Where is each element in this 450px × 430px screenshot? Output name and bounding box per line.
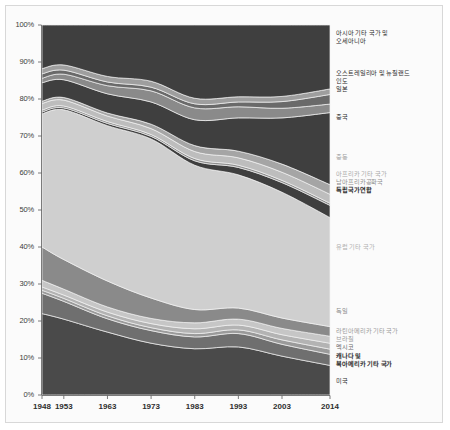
legend-item-label: 유럽 기타 국가	[336, 243, 375, 251]
legend-item-india[interactable]: 인도	[336, 77, 348, 85]
y-tick-label: 60%	[0, 168, 34, 177]
legend-item-africa-other[interactable]: 아프리카 기타 국가	[336, 170, 386, 178]
stacked-area-chart: 0%10%20%30%40%50%60%70%80%90%100% 194819…	[0, 0, 450, 430]
legend-item-label: 독립국가연합	[336, 186, 371, 194]
legend-item-label: 인도	[336, 77, 348, 85]
legend-item-label: 아프리카 기타 국가	[336, 170, 386, 178]
y-tick-label: 0%	[0, 390, 34, 399]
x-tick-label: 1953	[44, 402, 84, 411]
x-tick-label: 1963	[87, 402, 127, 411]
legend-item-mexico[interactable]: 멕시코	[336, 343, 354, 351]
legend-item-label: 중동	[336, 153, 348, 161]
legend-item-usa[interactable]: 미국	[336, 377, 348, 385]
legend-item-label: 아시아 기타 국가 및	[336, 29, 388, 37]
legend-item-europe-other[interactable]: 유럽 기타 국가	[336, 243, 375, 251]
legend-item-label: 미국	[336, 377, 348, 385]
legend-item-label: 브라질	[336, 335, 354, 343]
legend-item-label: 독일	[336, 307, 348, 315]
legend-item-label: 오세아니아	[336, 37, 388, 45]
legend-item-label: 북아메리카 기타 국가	[336, 360, 392, 368]
legend-item-label: 캐나다 및	[336, 352, 392, 360]
y-tick-label: 80%	[0, 94, 34, 103]
x-tick-label: 1993	[218, 402, 258, 411]
legend-item-japan[interactable]: 일본	[336, 85, 348, 93]
legend-item-germany[interactable]: 독일	[336, 307, 348, 315]
y-tick-label: 70%	[0, 131, 34, 140]
y-tick-label: 20%	[0, 316, 34, 325]
legend-item-cis[interactable]: 독립국가연합	[336, 186, 371, 194]
legend-item-china[interactable]: 중국	[336, 113, 348, 121]
legend-item-middle-east[interactable]: 중동	[336, 153, 348, 161]
y-tick-label: 40%	[0, 242, 34, 251]
legend-item-label: 중국	[336, 113, 348, 121]
y-tick-label: 30%	[0, 279, 34, 288]
x-tick-label: 2014	[310, 402, 350, 411]
x-tick-label: 2003	[262, 402, 302, 411]
y-tick-label: 50%	[0, 205, 34, 214]
legend-item-asia-other-oceania[interactable]: 아시아 기타 국가 및오세아니아	[336, 29, 388, 44]
legend-item-label: 오스트레일리아 및 뉴질랜드	[336, 69, 410, 77]
x-tick-label: 1983	[175, 402, 215, 411]
y-tick-label: 90%	[0, 57, 34, 66]
legend-item-label: 남아프리카공화국	[336, 178, 383, 186]
legend-item-label: 라틴아메리카 기타 국가	[336, 327, 398, 335]
legend-item-australia-newzealand[interactable]: 오스트레일리아 및 뉴질랜드	[336, 69, 410, 77]
area-bands	[42, 25, 330, 395]
legend-item-canada-north-america-other[interactable]: 캐나다 및북아메리카 기타 국가	[336, 352, 392, 367]
legend-item-label: 일본	[336, 85, 348, 93]
legend-item-brazil[interactable]: 브라질	[336, 335, 354, 343]
legend-item-south-africa[interactable]: 남아프리카공화국	[336, 178, 383, 186]
y-tick-label: 100%	[0, 20, 34, 29]
legend-item-label: 멕시코	[336, 343, 354, 351]
x-tick-label: 1973	[131, 402, 171, 411]
legend-item-latin-america-other[interactable]: 라틴아메리카 기타 국가	[336, 327, 398, 335]
y-tick-label: 10%	[0, 353, 34, 362]
